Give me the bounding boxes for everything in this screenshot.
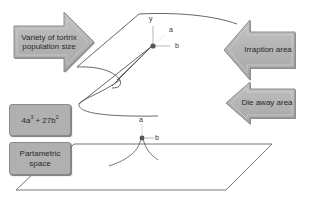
bottom-origin-point bbox=[140, 136, 145, 141]
top-axes bbox=[150, 26, 170, 49]
bottom-axis-a-label: a bbox=[139, 116, 143, 123]
top-axis-a-label: a bbox=[169, 26, 173, 33]
variety-arrow-label: Variety of tortrix population size bbox=[18, 33, 80, 51]
die-away-arrow-label: Die away area bbox=[238, 98, 296, 107]
top-origin-point bbox=[150, 43, 155, 48]
behavior-surface bbox=[77, 13, 237, 116]
variety-label-line1: Variety of tortrix bbox=[21, 33, 76, 42]
formula-box: 4a3 + 27b2 bbox=[9, 104, 71, 136]
parametric-label-line2: space bbox=[29, 159, 50, 168]
top-axis-b-label: b bbox=[175, 42, 179, 49]
bottom-axis-b-label: b bbox=[155, 134, 159, 141]
irruption-arrow-label: Irraption area bbox=[240, 45, 296, 54]
cusp-curves bbox=[109, 138, 158, 166]
variety-label-line2: population size bbox=[22, 42, 75, 51]
bottom-axes bbox=[140, 124, 154, 140]
parametric-space-box: Partametric space bbox=[9, 142, 71, 175]
top-axis-y-label: y bbox=[149, 15, 153, 22]
parametric-label-line1: Partametric bbox=[20, 149, 61, 158]
formula-text: 4a3 + 27b2 bbox=[22, 114, 59, 125]
